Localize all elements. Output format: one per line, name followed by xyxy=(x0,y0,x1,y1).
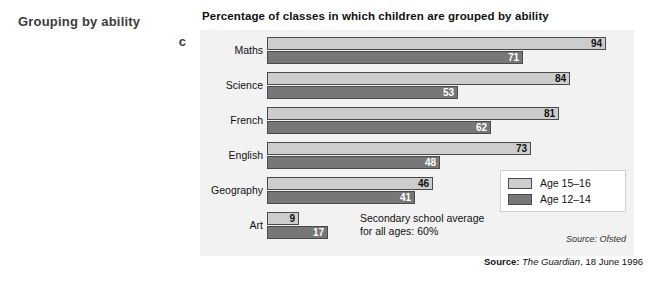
bar-value-label: 48 xyxy=(267,156,440,169)
chart-legend: Age 15–16Age 12–14 xyxy=(500,170,626,212)
bar-row: 53 xyxy=(267,86,634,99)
bar-pair: 9471 xyxy=(267,37,634,65)
bar-value-label: 71 xyxy=(267,51,523,64)
category-label: Art xyxy=(200,219,263,231)
section-letter: c xyxy=(18,34,186,49)
bar-row: 84 xyxy=(267,72,634,85)
legend-swatch xyxy=(508,194,532,205)
margin-column: Grouping by ability c xyxy=(0,0,190,281)
legend-item: Age 12–14 xyxy=(508,192,619,206)
bar-pair: 8453 xyxy=(267,72,634,100)
legend-item: Age 15–16 xyxy=(508,176,619,190)
bar-value-label: 84 xyxy=(267,72,570,85)
bar-group: Maths9471 xyxy=(200,36,634,66)
category-label: English xyxy=(200,149,263,161)
category-label: Geography xyxy=(200,184,263,196)
bar-value-label: 81 xyxy=(267,107,559,120)
source-label: Source: xyxy=(484,256,519,267)
bar-row: 73 xyxy=(267,142,634,155)
legend-label: Age 15–16 xyxy=(540,177,591,189)
bar-group: Science8453 xyxy=(200,71,634,101)
bar-value-label: 73 xyxy=(267,142,531,155)
category-label: Maths xyxy=(200,44,263,56)
bar-pair: 8162 xyxy=(267,107,634,135)
bar-value-label: 17 xyxy=(267,226,328,239)
bar-group: English7348 xyxy=(200,141,634,171)
bar-row: 48 xyxy=(267,156,634,169)
chart-annotation: Secondary school average for all ages: 6… xyxy=(360,212,484,238)
bar-value-label: 53 xyxy=(267,86,458,99)
chart-source-note: Source: Ofsted xyxy=(566,234,626,244)
category-label: French xyxy=(200,114,263,126)
bar-value-label: 46 xyxy=(267,177,433,190)
bar-chart-panel: Maths9471Science8453French8162English734… xyxy=(200,30,634,256)
source-date: , 18 June 1996 xyxy=(580,256,643,267)
bottom-source-line: Source: The Guardian, 18 June 1996 xyxy=(484,256,643,267)
annotation-line-1: Secondary school average xyxy=(360,212,484,225)
figure-title: Percentage of classes in which children … xyxy=(202,10,549,22)
bar-value-label: 9 xyxy=(267,212,299,225)
section-heading: Grouping by ability xyxy=(18,14,190,29)
bar-pair: 7348 xyxy=(267,142,634,170)
bar-value-label: 94 xyxy=(267,37,606,50)
bar-row: 94 xyxy=(267,37,634,50)
source-publication: The Guardian xyxy=(522,256,580,267)
bar-group: French8162 xyxy=(200,106,634,136)
legend-swatch xyxy=(508,178,532,189)
legend-label: Age 12–14 xyxy=(540,193,591,205)
bar-row: 62 xyxy=(267,121,634,134)
annotation-line-2: for all ages: 60% xyxy=(360,225,484,238)
bar-row: 71 xyxy=(267,51,634,64)
figure: Percentage of classes in which children … xyxy=(200,6,640,281)
category-label: Science xyxy=(200,79,263,91)
bar-value-label: 41 xyxy=(267,191,415,204)
bar-row: 81 xyxy=(267,107,634,120)
bar-value-label: 62 xyxy=(267,121,491,134)
